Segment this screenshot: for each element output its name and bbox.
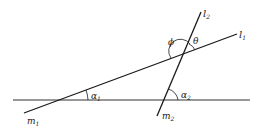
label-alpha1: α1 [91,91,101,102]
alpha2-arc [168,89,178,100]
label-l2: l2 [203,8,210,20]
label-alpha2: α2 [181,90,191,101]
alpha1-arc [86,90,88,100]
lines-diagram: l2 l1 ϕ θ α1 α2 m1 m2 [0,0,263,131]
line-l1 [24,34,237,113]
label-m2: m2 [162,111,175,122]
label-phi: ϕ [168,37,174,47]
label-m1: m1 [27,116,39,127]
label-l1: l1 [239,29,246,41]
label-theta: θ [193,36,199,46]
diagram-canvas: l2 l1 ϕ θ α1 α2 m1 m2 [0,0,263,131]
